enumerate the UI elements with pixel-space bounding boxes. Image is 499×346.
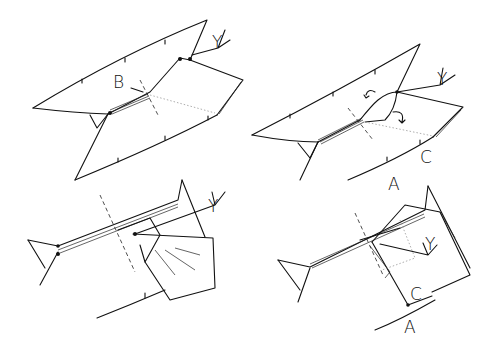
label-y: Y (212, 32, 222, 52)
label-c: C (420, 147, 432, 167)
label-y: Y (425, 234, 435, 254)
label-y: Y (208, 196, 218, 216)
step-1-figure: B Y (33, 20, 243, 180)
step-4-figure: C A Y (278, 186, 470, 337)
label-b: B (113, 72, 124, 92)
label-y: Y (437, 69, 447, 89)
label-c: C (410, 284, 422, 304)
step-2-figure: A C Y (252, 44, 463, 194)
step-3-figure: Y (28, 180, 225, 318)
label-a: A (388, 174, 400, 194)
origami-diagram: B Y A C Y (0, 0, 499, 346)
label-a: A (404, 317, 416, 337)
